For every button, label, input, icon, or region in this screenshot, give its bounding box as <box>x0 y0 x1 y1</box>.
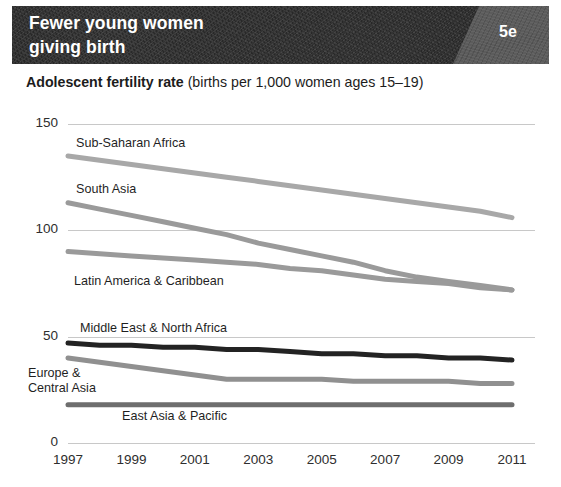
series-label-5: East Asia & Pacific <box>122 409 227 424</box>
chart-page: Fewer young women giving birth 5e Adoles… <box>0 0 561 487</box>
series-lines <box>0 0 561 487</box>
series-label-4: Europe & Central Asia <box>28 366 96 395</box>
series-label-1: South Asia <box>76 182 136 197</box>
series-label-3: Middle East & North Africa <box>80 321 227 336</box>
series-label-0: Sub-Saharan Africa <box>76 136 185 151</box>
series-label-2: Latin America & Caribbean <box>74 274 224 289</box>
series-line-4 <box>68 358 512 384</box>
plot-area: 150100500 199719992001200320052007200920… <box>0 0 561 487</box>
series-line-3 <box>68 343 512 360</box>
